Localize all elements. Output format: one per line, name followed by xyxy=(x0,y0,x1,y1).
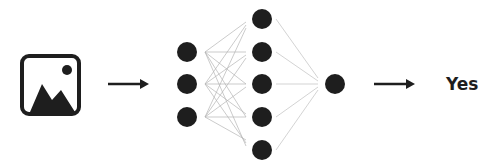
output-layer xyxy=(325,74,345,94)
input-node xyxy=(177,107,197,127)
hidden-node xyxy=(252,42,272,62)
neural-network-diagram xyxy=(0,0,496,168)
edges-hidden-output xyxy=(276,19,318,150)
input-layer xyxy=(177,42,197,127)
hidden-node xyxy=(252,107,272,127)
arrow-to-output xyxy=(374,79,415,89)
image-icon xyxy=(22,56,79,114)
hidden-node xyxy=(252,140,272,160)
hidden-node xyxy=(252,74,272,94)
arrow-to-network xyxy=(108,79,149,89)
hidden-node xyxy=(252,9,272,29)
edges-input-hidden xyxy=(205,22,246,146)
hidden-layer xyxy=(252,9,272,160)
output-node xyxy=(325,74,345,94)
input-node xyxy=(177,42,197,62)
output-label: Yes xyxy=(446,73,478,95)
input-node xyxy=(177,74,197,94)
